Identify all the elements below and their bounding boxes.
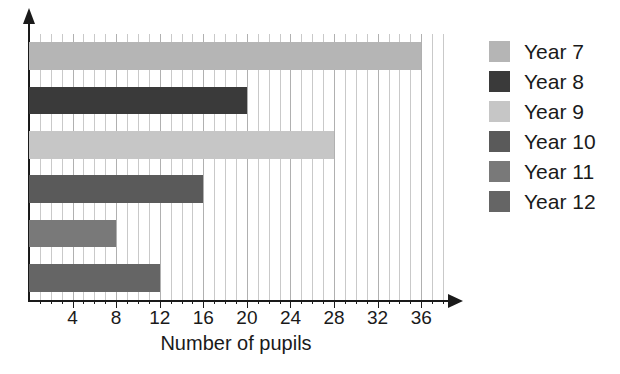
x-tick-label-12: 12 <box>149 307 170 329</box>
legend-item-year-11[interactable]: Year 11 <box>489 156 614 186</box>
legend-swatch-icon <box>489 161 510 182</box>
legend-label: Year 11 <box>524 161 594 182</box>
x-tick-label-32: 32 <box>367 307 388 329</box>
legend-label: Year 7 <box>524 41 584 62</box>
legend-label: Year 12 <box>524 191 596 212</box>
x-tick-label-4: 4 <box>67 307 78 329</box>
legend-item-year-10[interactable]: Year 10 <box>489 126 614 156</box>
legend-swatch-icon <box>489 191 510 212</box>
legend: Year 7Year 8Year 9Year 10Year 11Year 12 <box>489 36 614 216</box>
bar-chart: 4812162024283236 Number of pupils Year 7… <box>0 0 620 374</box>
legend-item-year-12[interactable]: Year 12 <box>489 186 614 216</box>
x-tick-label-24: 24 <box>280 307 301 329</box>
x-axis-title: Number of pupils <box>29 332 443 355</box>
x-tick-label-8: 8 <box>111 307 122 329</box>
legend-swatch-icon <box>489 101 510 122</box>
legend-label: Year 9 <box>524 101 584 122</box>
legend-label: Year 8 <box>524 71 584 92</box>
x-tick-label-16: 16 <box>193 307 214 329</box>
legend-item-year-8[interactable]: Year 8 <box>489 66 614 96</box>
legend-swatch-icon <box>489 131 510 152</box>
x-tick-label-36: 36 <box>411 307 432 329</box>
legend-item-year-7[interactable]: Year 7 <box>489 36 614 66</box>
legend-swatch-icon <box>489 71 510 92</box>
legend-item-year-9[interactable]: Year 9 <box>489 96 614 126</box>
x-tick-label-20: 20 <box>236 307 257 329</box>
legend-label: Year 10 <box>524 131 596 152</box>
x-tick-label-28: 28 <box>323 307 344 329</box>
legend-swatch-icon <box>489 41 510 62</box>
